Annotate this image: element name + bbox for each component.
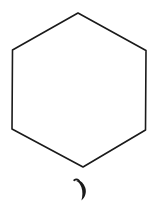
sketch-canvas	[0, 0, 160, 212]
drawing-surface	[0, 0, 160, 212]
background-rect	[0, 0, 160, 212]
